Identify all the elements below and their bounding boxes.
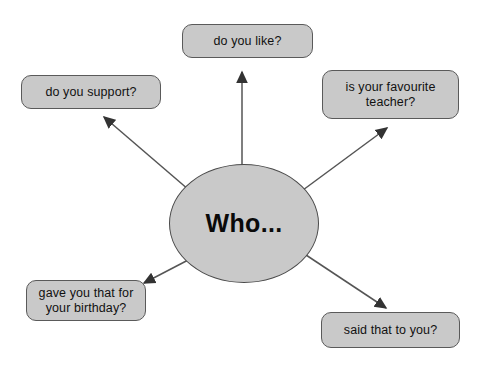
branch-node-do-you-support[interactable]: do you support? xyxy=(21,75,161,109)
branch-node-said-that-to-you[interactable]: said that to you? xyxy=(321,312,460,348)
branch-label-do-you-support: do you support? xyxy=(45,85,136,100)
center-node-who[interactable]: Who... xyxy=(169,164,319,283)
arrow-to-said-that-to-you xyxy=(306,255,386,308)
arrow-to-do-you-support xyxy=(104,117,189,190)
branch-node-is-your-favourite-teacher[interactable]: is your favourite teacher? xyxy=(322,70,459,119)
center-node-label: Who... xyxy=(206,209,283,238)
branch-label-is-your-favourite-teacher: is your favourite teacher? xyxy=(346,80,436,110)
mind-map-canvas: Who... do you like? do you support? is y… xyxy=(0,0,491,370)
arrow-to-gave-you-that-for-your-birthday xyxy=(144,258,192,283)
branch-label-gave-you-that-for-your-birthday: gave you that for your birthday? xyxy=(39,286,134,316)
arrow-to-is-your-favourite-teacher xyxy=(303,128,387,190)
branch-label-said-that-to-you: said that to you? xyxy=(344,323,437,338)
branch-node-gave-you-that-for-your-birthday[interactable]: gave you that for your birthday? xyxy=(26,280,146,321)
branch-node-do-you-like[interactable]: do you like? xyxy=(182,24,313,58)
branch-label-do-you-like: do you like? xyxy=(214,34,282,49)
